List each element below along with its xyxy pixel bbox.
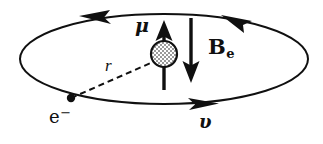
magnetic-field-label: Be [208,36,235,60]
magnetic-field-arrow [183,18,200,83]
physics-figure: μ Be r e− υ [0,0,323,144]
magnetic-field-label-base: B [208,34,226,59]
electron-label: e− [49,106,71,126]
magnetic-moment-label: μ [135,16,149,35]
orbit-arrowhead-top-right [221,15,252,33]
electron-point [67,94,75,102]
nucleus-circle [151,41,177,67]
magnetic-field-label-subscript: e [226,46,234,61]
radius-label: r [105,57,112,74]
velocity-label: υ [199,113,212,131]
electron-label-base: e [49,106,60,127]
electron-label-superscript: − [60,105,71,120]
orbit-radius-dashed-line [71,62,153,98]
